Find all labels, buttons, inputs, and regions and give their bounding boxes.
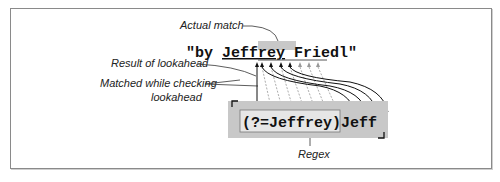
- regex-lookahead: (?=Jeffrey): [242, 115, 341, 132]
- label-actual-match: Actual match: [179, 19, 244, 31]
- subject-string: "by Jeffrey Friedl": [186, 45, 357, 62]
- actual-match-leader: [252, 26, 278, 41]
- label-regex: Regex: [298, 148, 330, 160]
- label-matched-while-checking-2: lookahead: [151, 91, 203, 103]
- lookahead-diagram: "by Jeffrey Friedl" Actual match Result …: [0, 0, 500, 182]
- label-result-of-lookahead: Result of lookahead: [111, 57, 209, 69]
- label-matched-while-checking-1: Matched while checking: [100, 77, 218, 89]
- regex-literal: Jeff: [341, 115, 377, 132]
- arrow-heads: [255, 62, 320, 67]
